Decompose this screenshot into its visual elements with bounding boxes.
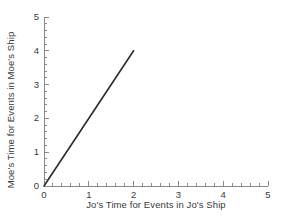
y-tick-label: 4: [27, 45, 39, 56]
y-tick-label: 0: [27, 180, 39, 191]
data-line-0: [44, 51, 134, 186]
y-tick-label: 5: [27, 11, 39, 22]
x-tick-label: 4: [216, 189, 230, 200]
y-tick-label: 3: [27, 79, 39, 90]
plot-area: [0, 0, 284, 220]
y-tick-label: 1: [27, 146, 39, 157]
x-tick-label: 3: [171, 189, 185, 200]
y-tick-label: 2: [27, 112, 39, 123]
chart-screenshot: Moe's Time for Events in Moe's Ship Jo's…: [0, 0, 284, 220]
x-tick-label: 1: [82, 189, 96, 200]
x-tick-label: 0: [37, 189, 51, 200]
x-tick-label: 5: [261, 189, 275, 200]
x-tick-label: 2: [127, 189, 141, 200]
